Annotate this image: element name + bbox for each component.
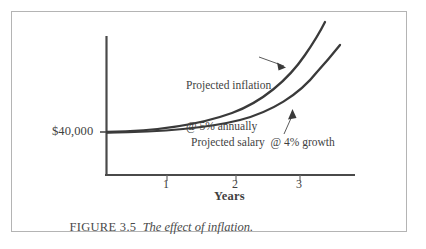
arrowhead-salary [288, 109, 297, 120]
figure-container: $40,000 1 2 3 Years Projected inflation … [0, 0, 426, 249]
annotation-inflation-line-2: @ 5% annually [186, 120, 271, 134]
arrowhead-inflation [277, 63, 286, 71]
x-axis-tick-label-3: 3 [296, 177, 302, 191]
figure-caption-label: FIGURE 3.5 [70, 220, 137, 234]
figure-caption: FIGURE 3.5 The effect of inflation. [57, 205, 253, 249]
annotation-projected-salary: Projected salary @ 4% growth [191, 136, 335, 150]
y-axis-baseline-label: $40,000 [52, 124, 93, 139]
figure-caption-title: The effect of inflation. [143, 220, 253, 234]
annotation-inflation-line-1: Projected inflation [186, 79, 271, 93]
x-axis-title: Years [214, 189, 245, 204]
x-axis-tick-label-1: 1 [163, 177, 169, 191]
